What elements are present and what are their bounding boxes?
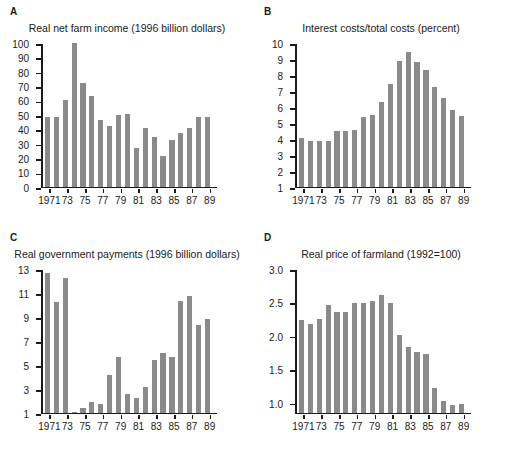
panel-c-plot: 135791113 <box>41 270 215 414</box>
panel-a-bar <box>80 83 85 187</box>
panel-a-bar <box>107 126 112 186</box>
panel-b-y-tick-label: 6 <box>277 104 283 114</box>
panel-b-bar <box>423 70 428 187</box>
panel-d-bar-slot <box>359 270 368 413</box>
panel-c-bar <box>143 387 148 412</box>
panel-d-x-tick <box>446 415 448 419</box>
panel-b-x-tick-label: 79 <box>369 195 380 206</box>
panel-a-bar-slot <box>105 44 114 187</box>
panel-b-bar <box>432 87 437 187</box>
panel-b-x-tick <box>303 189 305 193</box>
panel-c-bar-slot <box>123 270 132 413</box>
panel-d-bar <box>379 295 384 412</box>
panel-b-y-tick: 2 <box>290 172 295 174</box>
panel-d-bar <box>450 405 455 412</box>
panel-a-bar-slot <box>141 44 150 187</box>
panel-d-y-tick: 1.0 <box>290 404 295 406</box>
panel-b-bar <box>459 116 464 186</box>
panel-d-x-tick-label: 79 <box>369 421 380 432</box>
panel-d-bar <box>397 335 402 413</box>
panel-a-bar <box>205 117 210 186</box>
panel-d-bar <box>334 312 339 412</box>
panel-d-bars <box>297 270 469 413</box>
panel-c-y-tick-label: 13 <box>18 266 29 276</box>
panel-a-bar <box>54 117 59 187</box>
panel-a-y-tick: 50 <box>36 116 41 118</box>
panel-a-y-tick: 90 <box>36 58 41 60</box>
panel-c-x-tick <box>210 415 212 419</box>
panel-c-bar <box>169 357 174 413</box>
panel-b-x-tick <box>339 189 341 193</box>
panel-d-bar <box>406 347 411 413</box>
panel-b-bar-slot <box>430 44 439 187</box>
panel-b-bar-slot <box>421 44 430 187</box>
panel-a-x-labels: 1971737577798183858789 <box>43 193 219 207</box>
panel-a-bar-slot <box>43 44 52 187</box>
panel-c-y-tick: 7 <box>36 342 41 344</box>
panel-a-bar <box>72 43 77 187</box>
panel-b-y-tick: 8 <box>290 76 295 78</box>
panel-a-y-tick: 0 <box>36 188 41 190</box>
panel-d-letter: D <box>264 232 271 243</box>
panel-c-bar-slot <box>61 270 70 413</box>
panel-d-x-tick <box>375 415 377 419</box>
panel-b-bar <box>370 115 375 187</box>
panel-d-x-tick <box>339 415 341 419</box>
panel-b-y-tick: 10 <box>290 44 295 46</box>
panel-a-y-tick: 60 <box>36 102 41 104</box>
panel-a-x-tick-label: 75 <box>79 195 90 206</box>
panel-d-x-tick-label: 1971 <box>292 421 314 432</box>
panel-c-y-tick: 1 <box>36 414 41 416</box>
panel-b-bar <box>397 61 402 187</box>
panel-a-bar-slot <box>194 44 203 187</box>
panel-c-x-tick <box>121 415 123 419</box>
panel-d-y-tick-label: 3.0 <box>269 266 283 276</box>
panel-d-bar <box>317 319 322 412</box>
panel-a-bar-slot <box>150 44 159 187</box>
panel-a-y-tick-label: 50 <box>18 112 29 122</box>
panel-c-bar-slot <box>194 270 203 413</box>
panel-d: D Real price of farmland (1992=100) 1.01… <box>254 226 508 452</box>
panel-b-bars <box>297 44 469 187</box>
panel-d-x-tick <box>357 415 359 419</box>
panel-a-bar-slot <box>70 44 79 187</box>
panel-a-y-tick-label: 70 <box>18 83 29 93</box>
panel-d-bar <box>414 352 419 413</box>
panel-d-x-axis <box>295 413 471 415</box>
panel-a-bar-slot <box>203 44 212 187</box>
panel-b-x-tick-label: 1971 <box>292 195 314 206</box>
panel-b-x-tick-label: 75 <box>333 195 344 206</box>
panel-b-y-tick-label: 9 <box>277 56 283 66</box>
panel-c-bar-slot <box>159 270 168 413</box>
panel-d-x-tick <box>410 415 412 419</box>
panel-c-y-tick-label: 7 <box>23 338 29 348</box>
panel-d-bar-slot <box>395 270 404 413</box>
panel-b-y-tick-label: 8 <box>277 72 283 82</box>
panel-b-letter: B <box>264 6 271 17</box>
panel-c-bar-slot <box>176 270 185 413</box>
panel-a-y-tick: 70 <box>36 87 41 89</box>
panel-b-x-tick <box>464 189 466 193</box>
panel-b-bar-slot <box>350 44 359 187</box>
panel-b-x-tick-label: 81 <box>387 195 398 206</box>
panel-a-plot: 0102030405060708090100 <box>41 44 215 188</box>
panel-b-title: Interest costs/total costs (percent) <box>254 22 508 34</box>
panel-d-y-tick: 2.0 <box>290 337 295 339</box>
panel-a-y-tick-label: 60 <box>18 97 29 107</box>
panel-b-bar <box>361 117 366 187</box>
panel-a-x-tick <box>67 189 69 193</box>
panel-c-bar-slot <box>43 270 52 413</box>
panel-b-bar-slot <box>341 44 350 187</box>
panel-c-bar <box>63 278 68 412</box>
panel-a-y-tick-label: 80 <box>18 69 29 79</box>
panel-a-y-tick: 20 <box>36 159 41 161</box>
panel-a-bar-slot <box>61 44 70 187</box>
panel-b-y-tick: 5 <box>290 124 295 126</box>
panel-b-y-tick-label: 10 <box>272 40 283 50</box>
panel-d-title: Real price of farmland (1992=100) <box>254 248 508 260</box>
panel-d-plot: 1.01.52.02.53.0 <box>295 270 469 414</box>
panel-a-y-tick-label: 20 <box>18 155 29 165</box>
panel-c-y-tick: 13 <box>36 270 41 272</box>
panel-c-x-tick <box>67 415 69 419</box>
panel-a-x-tick <box>156 189 158 193</box>
